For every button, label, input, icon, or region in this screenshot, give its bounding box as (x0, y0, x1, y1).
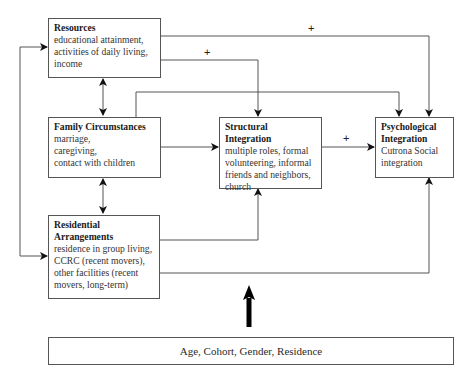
structural-line: friends and neighbors, (225, 169, 316, 181)
node-controls: Age, Cohort, Gender, Residence (48, 337, 454, 365)
structural-line: volunteering, informal (225, 157, 316, 169)
resources-title: Resources (54, 22, 155, 34)
resources-line: income (54, 58, 155, 70)
psychological-title: Psychological (381, 121, 448, 133)
residential-title: Arrangements (54, 231, 154, 243)
node-structural-integration: Structural Integration multiple roles, f… (219, 117, 322, 189)
residential-line: movers, long-term) (54, 279, 154, 291)
controls-label: Age, Cohort, Gender, Residence (180, 345, 323, 357)
node-family-circumstances: Family Circumstances marriage, caregivin… (48, 117, 161, 178)
family-title: Family Circumstances (54, 121, 155, 133)
thick-up-arrow-icon (243, 285, 255, 327)
structural-line: church (225, 181, 316, 193)
edge-family-psychological (136, 92, 399, 117)
edge-label-structural-psychological: + (343, 132, 349, 144)
edge-label-resources-psychological: + (308, 22, 314, 34)
residential-line: residence in group living, (54, 243, 154, 255)
edge-label-resources-structural: + (204, 46, 210, 58)
edge-resources-psychological (161, 36, 429, 116)
edge-residential-structural (160, 189, 258, 240)
residential-line: CCRC (recent movers), (54, 255, 154, 267)
family-line: contact with children (54, 157, 155, 169)
node-residential-arrangements: Residential Arrangements residence in gr… (48, 215, 160, 299)
psychological-title: Integration (381, 133, 448, 145)
structural-title: Structural Integration (225, 121, 316, 145)
structural-line: multiple roles, formal (225, 145, 316, 157)
edge-residential-resources (20, 47, 47, 256)
resources-line: educational attainment, (54, 34, 155, 46)
psychological-line: integration (381, 157, 448, 169)
family-line: caregiving, (54, 145, 155, 157)
node-psychological-integration: Psychological Integration Cutrona Social… (375, 117, 454, 178)
residential-line: other facilities (recent (54, 267, 154, 279)
psychological-line: Cutrona Social (381, 145, 448, 157)
family-line: marriage, (54, 133, 155, 145)
node-resources: Resources educational attainment, activi… (48, 18, 161, 78)
resources-line: activities of daily living, (54, 46, 155, 58)
residential-title: Residential (54, 219, 154, 231)
edge-resources-structural (161, 60, 258, 116)
